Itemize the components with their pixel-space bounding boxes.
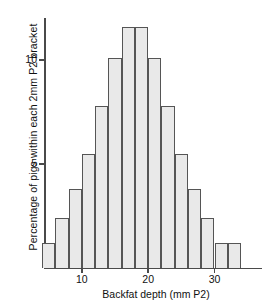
- histogram-bar: [82, 154, 95, 268]
- y-axis-label: Percentage of pigs within each 2mm P2 br…: [27, 12, 39, 262]
- histogram-bar: [42, 243, 55, 268]
- histogram-bar: [148, 58, 161, 268]
- histogram-bar: [201, 218, 214, 268]
- y-axis-tick-label: 5: [15, 157, 37, 169]
- histogram-bar: [108, 58, 121, 268]
- histogram-bar: [228, 243, 241, 268]
- x-axis-tick-label: 20: [133, 273, 163, 285]
- x-axis-tick-label: 30: [200, 273, 230, 285]
- histogram-bar: [175, 154, 188, 268]
- histogram-bar: [55, 218, 68, 268]
- histogram-figure: Percentage of pigs within each 2mm P2 br…: [0, 0, 274, 307]
- histogram-bar: [122, 27, 135, 268]
- histogram-bar: [95, 106, 108, 268]
- histogram-bar: [215, 243, 228, 268]
- x-axis-tick-label: 10: [67, 273, 97, 285]
- histogram-bar: [69, 189, 82, 268]
- histogram-bar: [188, 189, 201, 268]
- histogram-bar: [135, 27, 148, 268]
- histogram-bars: [44, 18, 262, 268]
- x-axis-label: Backfat depth (mm P2): [44, 288, 268, 300]
- histogram-bar: [161, 106, 174, 268]
- y-axis-tick-label: 10: [15, 53, 37, 65]
